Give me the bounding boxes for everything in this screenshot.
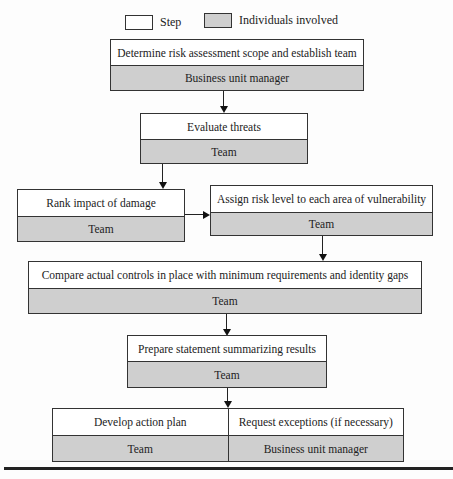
step-label-request-exceptions: Request exceptions (if necessary) [229,409,404,436]
legend-step-swatch [125,15,153,30]
arrow-down-icon [220,106,228,113]
arrow-down-icon [159,182,167,189]
connector [162,164,163,182]
node-compare-controls: Compare actual controls in place with mi… [28,261,422,314]
arrow-down-icon [319,254,327,261]
node-assign-risk: Assign risk level to each area of vulner… [210,185,433,236]
node-prepare-statement: Prepare statement summarizing results Te… [127,335,327,388]
legend-individuals-swatch [204,13,232,28]
node-evaluate-threats: Evaluate threats Team [140,113,308,164]
individuals-label: Team [128,362,326,387]
step-label: Determine risk assessment scope and esta… [111,40,363,66]
connector [185,214,204,215]
individuals-label: Business unit manager [111,66,363,90]
node-final-actions: Develop action plan Team Request excepti… [52,408,404,462]
step-label: Compare actual controls in place with mi… [29,262,421,289]
individuals-label: Team [211,213,432,235]
arrow-down-icon [224,401,232,408]
step-label: Rank impact of damage [18,190,184,217]
arrow-right-icon [203,211,210,219]
connector [322,236,323,254]
individuals-label: Team [141,140,307,163]
node-rank-impact: Rank impact of damage Team [17,189,185,242]
step-label: Evaluate threats [141,114,307,140]
step-label: Prepare statement summarizing results [128,336,326,362]
step-label: Assign risk level to each area of vulner… [211,186,432,213]
legend-step-label: Step [160,15,181,30]
connector [226,314,227,330]
connector [227,388,228,402]
step-label-develop-plan: Develop action plan [53,409,228,436]
individuals-label: Team [18,217,184,241]
individuals-label: Team [29,289,421,313]
legend-individuals-label: Individuals involved [239,13,338,28]
individuals-label: Team [53,436,228,461]
bottom-rule [4,467,453,470]
flowchart: Step Individuals involved Determine risk… [0,0,453,479]
connector [223,91,224,107]
individuals-label: Business unit manager [229,436,404,461]
node-determine-scope: Determine risk assessment scope and esta… [110,39,364,91]
